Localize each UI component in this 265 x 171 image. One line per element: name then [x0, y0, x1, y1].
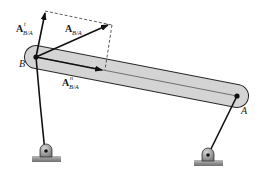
diagram-canvas: B A A t B/A A B/A A n B/A	[0, 0, 265, 171]
svg-text:B/A: B/A	[72, 29, 82, 36]
link-left	[36, 57, 45, 152]
svg-text:n: n	[70, 75, 73, 81]
ground-support-right	[194, 148, 223, 166]
pin-b	[33, 54, 38, 59]
svg-text:B/A: B/A	[23, 29, 33, 36]
ground-support-left	[32, 144, 61, 162]
label-point-a: A	[240, 105, 248, 116]
svg-text:B/A: B/A	[69, 83, 79, 90]
label-normal: A n B/A	[62, 75, 79, 90]
label-total: A B/A	[65, 23, 82, 36]
label-point-b: B	[19, 58, 25, 69]
pin-a	[234, 93, 239, 98]
label-tangential: A t B/A	[16, 21, 33, 36]
svg-text:t: t	[24, 21, 26, 27]
